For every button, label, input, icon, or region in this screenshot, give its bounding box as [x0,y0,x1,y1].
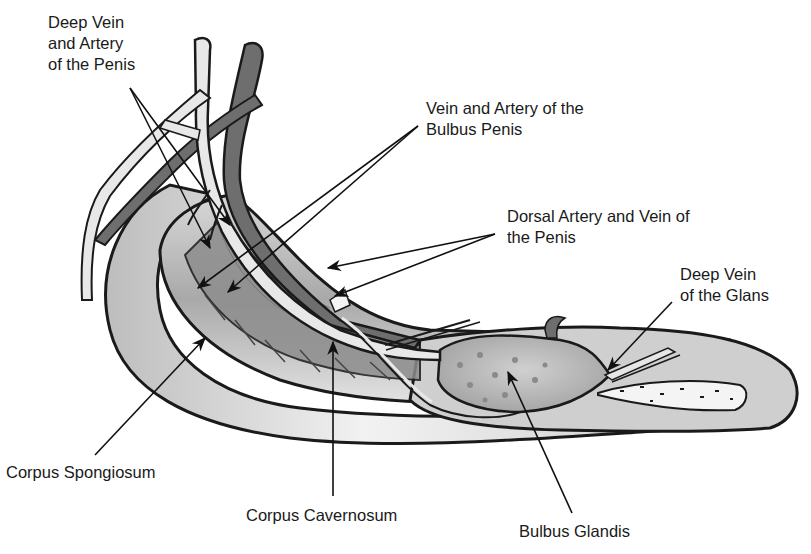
label-deep-vein-glans: Deep Vein of the Glans [680,264,769,306]
label-vein-artery-bulbus-penis: Vein and Artery of the Bulbus Penis [426,98,584,140]
label-dorsal-artery-vein-penis: Dorsal Artery and Vein of the Penis [507,206,690,248]
label-corpus-spongiosum: Corpus Spongiosum [6,462,156,483]
label-corpus-cavernosum: Corpus Cavernosum [246,505,397,526]
anatomy-diagram: Deep Vein and Artery of the Penis Vein a… [0,0,811,554]
label-deep-vein-artery-penis: Deep Vein and Artery of the Penis [48,12,135,75]
label-bulbus-glandis: Bulbus Glandis [519,521,630,542]
